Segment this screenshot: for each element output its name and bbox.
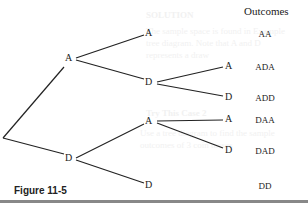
outcome-ada: ADA	[235, 62, 295, 72]
outcome-dd: DD	[235, 181, 295, 191]
node-dd: D	[145, 180, 152, 190]
node-ada: A	[225, 61, 232, 71]
outcome-dad: DAD	[235, 146, 295, 156]
node-aa: A	[145, 28, 152, 38]
node-daa: A	[225, 114, 232, 124]
bottom-divider	[0, 200, 308, 203]
figure-caption: Figure 11-5	[14, 185, 67, 196]
node-level1-a: A	[65, 53, 72, 63]
node-add: D	[225, 92, 232, 102]
outcome-add: ADD	[235, 93, 295, 103]
node-da: A	[145, 116, 152, 126]
outcome-aa: AA	[235, 29, 295, 39]
outcome-daa: DAA	[235, 115, 295, 125]
node-dad: D	[225, 145, 232, 155]
node-ad: D	[145, 77, 152, 87]
outcomes-header: Outcomes	[244, 5, 289, 17]
node-level1-d: D	[65, 153, 72, 163]
